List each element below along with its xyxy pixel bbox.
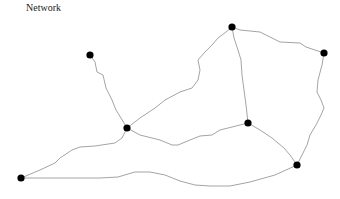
edge-b-g	[21, 128, 127, 178]
node-d	[320, 49, 327, 56]
edge-b-e	[127, 123, 248, 145]
node-a	[86, 51, 93, 58]
edge-g-f	[21, 165, 297, 186]
node-b	[123, 124, 130, 131]
edge-c-d	[232, 27, 324, 53]
node-g	[17, 174, 24, 181]
edge-a-b	[90, 55, 127, 128]
node-e	[244, 119, 251, 126]
edge-d-f	[297, 53, 324, 165]
edge-b-c	[127, 27, 232, 128]
node-f	[293, 161, 300, 168]
edge-e-f	[248, 123, 297, 165]
node-c	[228, 23, 235, 30]
edge-c-e	[232, 27, 248, 123]
network-diagram	[0, 0, 340, 199]
